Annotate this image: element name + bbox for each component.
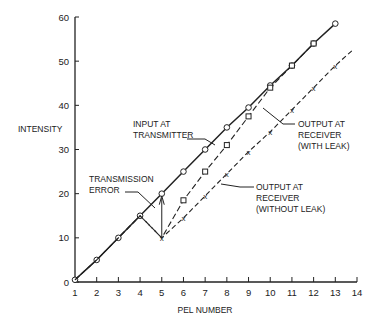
y-tick-label: 0 <box>64 277 69 288</box>
marker-circle <box>246 105 252 111</box>
intensity-chart: 01020304050601234567891011121314PEL NUMB… <box>0 0 377 328</box>
x-tick-label: 6 <box>181 287 186 298</box>
annotation-without-leak: OUTPUT AT <box>256 182 303 192</box>
x-tick-label: 11 <box>287 287 297 298</box>
marker-circle <box>202 147 208 153</box>
marker-circle <box>224 125 230 131</box>
x-tick-label: 1 <box>72 287 77 298</box>
annotation-input: TRANSMITTER <box>133 130 193 140</box>
x-tick-label: 10 <box>265 287 276 298</box>
annotation-without-leak: RECEIVER <box>256 193 299 203</box>
x-tick-label: 2 <box>94 287 99 298</box>
leader <box>221 184 254 187</box>
annotation-with-leak: (WITH LEAK) <box>298 141 350 151</box>
annotation-error: ERROR <box>89 185 120 195</box>
marker-circle <box>181 169 187 175</box>
marker-circle <box>333 21 339 27</box>
y-tick-label: 50 <box>58 56 69 67</box>
x-tick-label: 12 <box>308 287 319 298</box>
x-tick-label: 7 <box>203 287 208 298</box>
x-axis-label: PEL NUMBER <box>178 305 233 315</box>
marker-x: x <box>225 170 229 179</box>
marker-square <box>289 63 294 68</box>
marker-x: x <box>181 214 185 223</box>
x-tick-label: 13 <box>330 287 341 298</box>
marker-square <box>224 143 229 148</box>
marker-square <box>203 169 208 174</box>
annotation-without-leak: (WITHOUT LEAK) <box>256 204 325 214</box>
y-tick-label: 10 <box>58 232 69 243</box>
marker-x: x <box>268 128 272 137</box>
y-tick-label: 30 <box>58 144 69 155</box>
marker-x: x <box>247 148 251 157</box>
marker-square <box>268 85 273 90</box>
y-tick-label: 60 <box>58 12 69 23</box>
annotation-with-leak: OUTPUT AT <box>298 119 345 129</box>
marker-square <box>311 41 316 46</box>
x-tick-label: 5 <box>159 287 164 298</box>
marker-square <box>246 114 251 119</box>
x-tick-label: 3 <box>116 287 121 298</box>
x-tick-label: 4 <box>137 287 142 298</box>
x-tick-label: 14 <box>352 287 363 298</box>
marker-square <box>181 198 186 203</box>
marker-x: x <box>333 62 337 71</box>
annotation-with-leak: RECEIVER <box>298 130 341 140</box>
y-tick-label: 20 <box>58 188 69 199</box>
marker-x: x <box>203 192 207 201</box>
annotation-input: INPUT AT <box>133 119 170 129</box>
y-axis-label: INTENSITY <box>18 124 63 134</box>
y-tick-label: 40 <box>58 100 69 111</box>
annotation-error: TRANSMISSION <box>89 174 154 184</box>
marker-x: x <box>312 84 316 93</box>
x-tick-label: 9 <box>246 287 251 298</box>
x-tick-label: 8 <box>224 287 229 298</box>
marker-x: x <box>290 106 294 115</box>
